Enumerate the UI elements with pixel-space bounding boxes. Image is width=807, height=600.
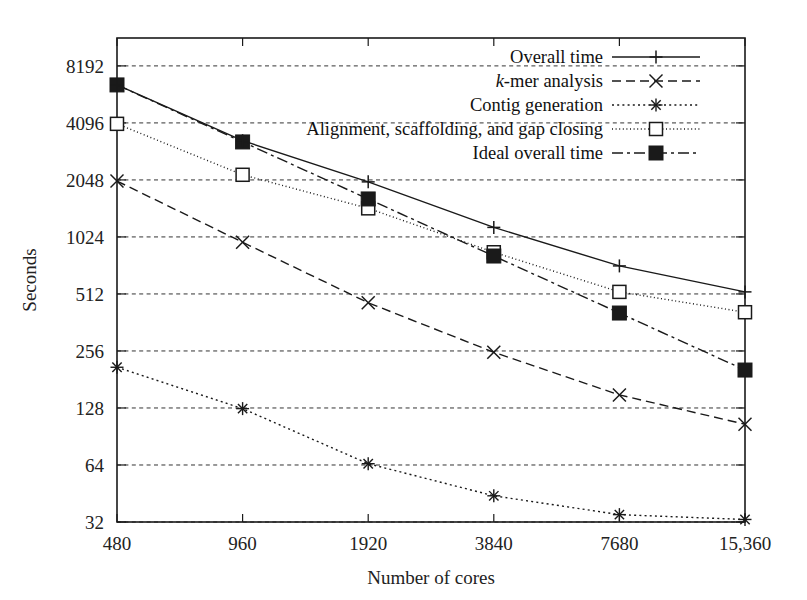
log-log-line-chart: 3264128256512102420484096819248096019203… xyxy=(0,0,807,600)
y-axis-tick-label: 2048 xyxy=(66,170,104,191)
marker-open-square xyxy=(236,168,249,181)
chart-container: 3264128256512102420484096819248096019203… xyxy=(0,0,807,600)
y-axis-tick-label: 512 xyxy=(76,284,105,305)
y-axis-tick-label: 32 xyxy=(85,512,104,533)
legend-label: Alignment, scaffolding, and gap closing xyxy=(306,119,603,139)
y-axis-tick-label: 1024 xyxy=(66,227,105,248)
y-axis-tick-label: 8192 xyxy=(66,56,104,77)
x-axis-tick-label: 480 xyxy=(103,533,132,554)
x-axis-tick-label: 1920 xyxy=(349,533,387,554)
marker-open-square xyxy=(650,123,663,136)
legend-label: Overall time xyxy=(510,47,603,67)
legend-label: Ideal overall time xyxy=(473,143,603,163)
legend: Overall timek-mer analysisContig generat… xyxy=(306,47,700,163)
marker-open-square xyxy=(739,306,752,319)
marker-filled-square xyxy=(487,249,501,263)
plot-frame xyxy=(117,38,745,522)
y-axis-tick-label: 4096 xyxy=(66,113,104,134)
series-line xyxy=(117,181,745,424)
x-axis-tick-label: 960 xyxy=(228,533,257,554)
legend-label: Contig generation xyxy=(470,95,603,115)
marker-filled-square xyxy=(361,192,375,206)
y-axis-tick-label: 128 xyxy=(76,398,105,419)
x-axis-tick-label: 7680 xyxy=(600,533,638,554)
marker-filled-square xyxy=(649,146,663,160)
y-axis-tick-label: 64 xyxy=(85,455,105,476)
marker-filled-square xyxy=(738,363,752,377)
legend-label: k-mer analysis xyxy=(496,71,603,91)
series-cross xyxy=(111,175,752,431)
y-axis-tick-label: 256 xyxy=(76,341,105,362)
marker-open-square xyxy=(111,117,124,130)
x-axis-title: Number of cores xyxy=(367,567,495,588)
series-line xyxy=(117,85,745,292)
marker-filled-square xyxy=(612,306,626,320)
series-line xyxy=(117,367,745,519)
y-axis-title: Seconds xyxy=(19,248,40,311)
legend-label-prefix: k xyxy=(496,71,505,91)
x-axis-tick-label: 3840 xyxy=(475,533,513,554)
series-asterisk xyxy=(111,361,752,526)
marker-open-square xyxy=(613,285,626,298)
gridlines-group: 32641282565121024204840968192 xyxy=(66,38,745,533)
x-axis-tick-label: 15,360 xyxy=(719,533,771,554)
